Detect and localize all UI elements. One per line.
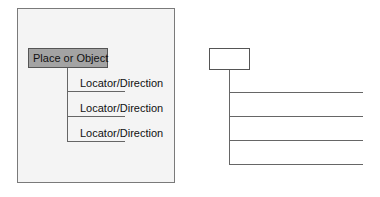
blank-branch-line-4[interactable] [229,164,363,165]
blank-branch-line-1[interactable] [229,92,363,93]
branch-line-1 [67,91,125,92]
blank-trunk-line [229,70,230,165]
blank-root-box[interactable] [209,48,250,70]
place-or-object-box: Place or Object [28,48,108,68]
branch-line-3 [67,141,125,142]
blank-branch-line-3[interactable] [229,140,363,141]
locator-label-1: Locator/Direction [80,77,163,89]
example-panel [17,8,175,183]
blank-branch-line-2[interactable] [229,116,363,117]
trunk-line [67,68,68,141]
locator-label-3: Locator/Direction [80,127,163,139]
branch-line-2 [67,116,125,117]
locator-label-2: Locator/Direction [80,102,163,114]
